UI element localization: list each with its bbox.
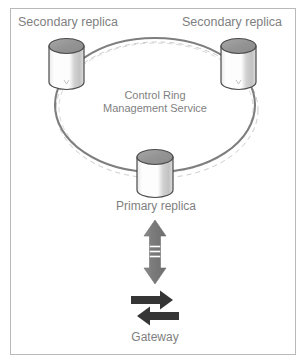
label-secondary-replica-left: Secondary replica [18,15,118,30]
double-headed-arrow-icon [144,220,166,284]
control-ring-line-1: Control Ring [124,89,185,101]
cylinder-secondary-replica-left [49,39,84,90]
label-gateway: Gateway [110,330,200,344]
swap-arrows-icon [131,291,179,326]
label-secondary-replica-right: Secondary replica [182,15,282,30]
label-control-ring-management-service: Control RingManagement Service [103,89,207,115]
control-ring-line-2: Management Service [103,102,207,115]
cylinder-primary-replica [137,150,173,198]
diagram-canvas: Secondary replica Secondary replica Cont… [0,0,307,362]
cylinder-secondary-replica-right [221,39,256,90]
label-primary-replica: Primary replica [104,199,208,213]
diagram-graphics [0,0,307,362]
